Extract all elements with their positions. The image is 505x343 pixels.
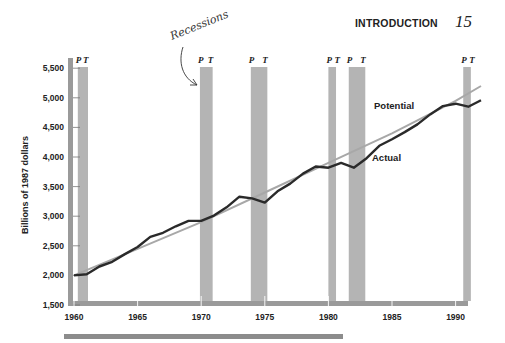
recession-band	[328, 67, 336, 301]
peak-marker: P	[76, 55, 82, 65]
actual-line	[74, 100, 481, 275]
actual-label: Actual	[372, 152, 401, 163]
recession-band	[200, 67, 213, 301]
y-axis-bar	[68, 58, 73, 306]
recession-band	[349, 67, 366, 301]
y-tick-label: 2,500	[43, 241, 65, 251]
trough-marker: T	[334, 55, 340, 65]
peak-marker: P	[347, 55, 353, 65]
y-tick-label: 5,000	[43, 93, 65, 103]
data-lines	[74, 86, 481, 275]
x-tick-label: 1970	[192, 312, 211, 322]
trough-marker: T	[83, 55, 89, 65]
recessions-annotation: Recessions	[167, 8, 230, 85]
y-tick-label: 4,500	[43, 122, 65, 132]
potential-line	[74, 86, 481, 275]
arrow-icon	[181, 47, 197, 85]
recession-band	[463, 67, 471, 301]
bottom-rule	[64, 334, 343, 339]
recession-band	[78, 67, 88, 301]
peak-trough-markers: PTPTPTPTPTPT	[76, 55, 475, 65]
x-axis-bar	[68, 301, 468, 306]
x-tick-label: 1985	[383, 312, 402, 322]
y-tick-label: 5,500	[43, 63, 65, 73]
peak-marker: P	[326, 55, 332, 65]
recessions-handwritten-label: Recessions	[167, 8, 230, 44]
y-tick-label: 3,500	[43, 182, 65, 192]
peak-marker: P	[249, 55, 255, 65]
peak-marker: P	[198, 55, 204, 65]
trough-marker: T	[469, 55, 475, 65]
y-tick-label: 3,000	[43, 211, 65, 221]
x-tick-label: 1990	[446, 312, 465, 322]
x-tick-label: 1980	[319, 312, 338, 322]
gnp-chart: PTPTPTPTPTPT 1,5002,0002,5003,0003,5004,…	[0, 0, 505, 343]
y-tick-label: 1,500	[43, 300, 65, 310]
trough-marker: T	[262, 55, 268, 65]
x-tick-label: 1965	[128, 312, 147, 322]
recession-band	[251, 67, 268, 301]
arrowhead-icon	[190, 79, 197, 85]
y-tick-label: 4,000	[43, 152, 65, 162]
trough-marker: T	[360, 55, 366, 65]
trough-marker: T	[208, 55, 214, 65]
x-tick-label: 1975	[255, 312, 274, 322]
peak-marker: P	[461, 55, 467, 65]
potential-label: Potential	[374, 100, 414, 111]
x-tick-label: 1960	[65, 312, 84, 322]
y-tick-label: 2,000	[43, 270, 65, 280]
